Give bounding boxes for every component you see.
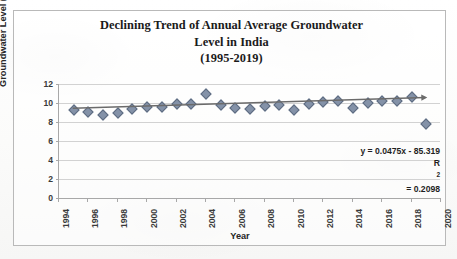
chart-title-line-2: Level in India [44,34,419,51]
y-tick-label: 4 [31,156,53,165]
x-tick-mark [381,198,382,202]
x-tick-mark [146,198,147,202]
trendline-r-squared: R2 = 0.2098 [360,158,440,196]
trendline-equation: y = 0.0475x - 85.319 [360,146,440,158]
x-tick-label: 1994 [62,209,71,228]
x-tick-mark [117,198,118,202]
x-tick-label: 2006 [238,209,247,228]
x-tick-mark [58,198,59,202]
x-tick-mark [234,198,235,202]
y-tick-label: 10 [31,99,53,108]
y-tick-label: 6 [31,137,53,146]
y-tick-label: 12 [31,80,53,89]
x-tick-mark [176,198,177,202]
chart-title-line-3: (1995-2019) [44,50,419,67]
x-tick-mark [322,198,323,202]
x-tick-label: 2000 [150,209,159,228]
chart-title-line-1: Declining Trend of Annual Average Ground… [44,17,419,34]
x-tick-mark [87,198,88,202]
x-axis-title: Year [190,231,290,241]
r-squared-value: = 0.2098 [360,184,440,196]
y-tick-label: 2 [31,175,53,184]
x-tick-mark [352,198,353,202]
trendline-arrowhead [421,94,427,100]
x-tick-label: 1996 [91,209,100,228]
x-tick-label: 2018 [414,209,423,228]
x-tick-label: 2002 [179,209,188,228]
x-tick-label: 2020 [444,209,453,228]
y-axis-title: Groundwater Level (mbgl) [0,0,8,90]
x-tick-label: 2012 [326,209,335,228]
x-tick-label: 2004 [208,209,217,228]
y-tick-label: 0 [31,194,53,203]
r-squared-exponent: 2 [436,171,440,178]
r-squared-label: R [360,158,440,170]
chart-title: Declining Trend of Annual Average Ground… [44,17,419,67]
x-tick-label: 2008 [267,209,276,228]
trendline-segment [73,97,426,108]
x-tick-mark [264,198,265,202]
x-tick-label: 1998 [120,209,129,228]
x-tick-label: 2016 [385,209,394,228]
x-tick-mark [293,198,294,202]
x-tick-mark [440,198,441,202]
x-tick-mark [411,198,412,202]
x-tick-label: 2014 [355,209,364,228]
trendline-equation-annotation: y = 0.0475x - 85.319 R2 = 0.2098 [360,146,440,196]
x-tick-mark [205,198,206,202]
x-tick-label: 2010 [297,209,306,228]
x-axis-line [58,198,440,199]
y-tick-label: 8 [31,118,53,127]
